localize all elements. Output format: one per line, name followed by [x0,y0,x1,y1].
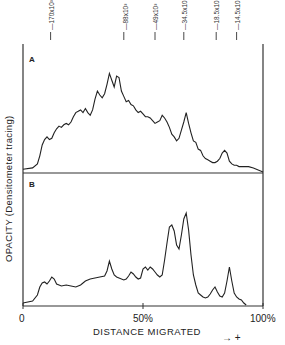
marker-ticks [51,32,237,40]
panel-label-b: B [29,180,35,189]
marker-label-49k: —49x10³ [152,4,159,30]
trace-panel-a [23,73,263,172]
x-tick-label-50: 50% [133,313,153,324]
marker-label-34-5k: —34.5x10³ [181,0,188,30]
marker-label-18-5k: —18.5x10³ [213,0,220,30]
marker-label-14-5k: —14.5x10³ [234,0,241,30]
x-tick-label-100: 100% [250,313,276,324]
y-axis-label: OPACITY (Densitometer tracing) [3,116,14,262]
marker-label-170k: —170x10³ [48,0,55,30]
direction-arrow: → + [222,332,241,343]
x-tick-label-0: 0 [19,313,25,324]
densitometer-chart [0,0,285,345]
x-axis-label: DISTANCE MIGRATED [93,326,201,337]
marker-label-88k: —88x10³ [122,4,129,30]
panel-label-a: A [29,55,35,64]
trace-panel-b [23,213,246,305]
